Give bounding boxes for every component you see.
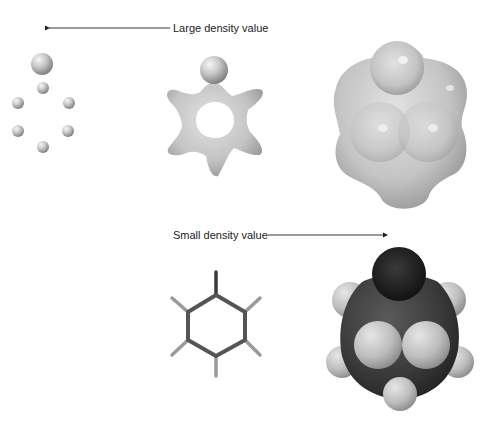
density-figure: Large density value Small density value (0, 0, 484, 427)
large-density-label: Large density value (173, 22, 268, 34)
large-density-isosurface (12, 53, 75, 153)
figure-graphics (0, 0, 484, 427)
small-density-label: Small density value (173, 229, 268, 241)
medium-density-isosurface (167, 56, 263, 176)
small-density-isosurface (334, 41, 467, 209)
stick-model (172, 272, 260, 376)
space-filling-model (326, 247, 474, 411)
